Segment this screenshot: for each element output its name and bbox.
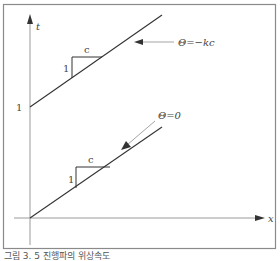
lower-line-label: Θ=0	[158, 110, 182, 121]
upper-phase-line: c 1 Θ=−kc	[30, 15, 215, 107]
upper-pointer-arrow-icon	[134, 39, 143, 45]
x-axis-arrow-icon	[255, 215, 265, 221]
upper-line-label: Θ=−kc	[178, 37, 215, 48]
lower-phase-line: c 1 Θ=0	[30, 110, 182, 218]
figure-caption: 그림 3. 5 진행파의 위상속도	[4, 251, 110, 261]
t-axis-arrow-icon	[27, 14, 33, 24]
x-axis: x	[14, 213, 274, 224]
lower-rise-label: 1	[68, 174, 74, 185]
t-axis-label: t	[36, 21, 41, 32]
upper-rise-label: 1	[63, 63, 69, 74]
upper-run-label: c	[84, 44, 90, 55]
t-axis: t	[27, 14, 41, 245]
lower-run-label: c	[88, 154, 94, 165]
lower-slope-triangle	[76, 167, 110, 188]
x-axis-label: x	[268, 213, 274, 224]
t-tick-label: 1	[16, 102, 22, 113]
